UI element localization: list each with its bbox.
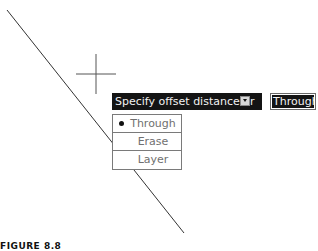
prompt-text: Specify offset distance or: [115, 95, 255, 108]
menu-item-layer[interactable]: Layer: [113, 151, 181, 169]
menu-item-through[interactable]: Through: [113, 115, 181, 133]
bullet-icon: [119, 121, 124, 126]
menu-item-label: Erase: [138, 135, 169, 148]
dynamic-input-value[interactable]: Through: [272, 95, 314, 108]
figure-caption: FIGURE 8.8: [0, 241, 61, 251]
dynamic-input-field[interactable]: Through: [270, 93, 316, 110]
dynamic-input-prompt: Specify offset distance or: [112, 93, 262, 110]
down-arrow-icon[interactable]: [240, 96, 250, 106]
menu-item-label: Layer: [138, 153, 169, 166]
crosshair-cursor-icon: [76, 54, 116, 94]
menu-item-label: Through: [130, 117, 176, 130]
menu-item-erase[interactable]: Erase: [113, 133, 181, 151]
options-menu: Through Erase Layer: [112, 114, 182, 170]
